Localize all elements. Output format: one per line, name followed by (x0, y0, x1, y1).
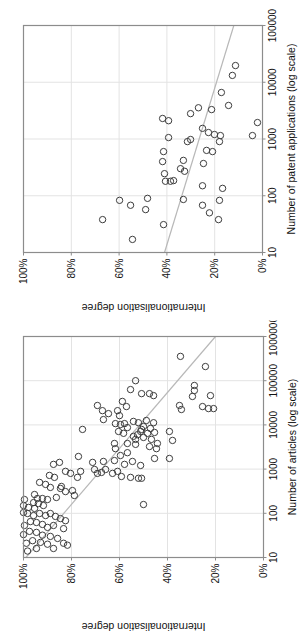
data-point (54, 535, 60, 541)
patents-x-axis-title: Number of patent applications (log scale… (284, 25, 297, 252)
patents-y-axis-title: Internationalisation degree (24, 300, 263, 314)
data-point (100, 416, 106, 422)
patents-plot-area: 101001000100001000000%20%40%60%80%100% (0, 0, 307, 320)
articles-x-axis-title: Number of articles (log scale) (285, 336, 298, 557)
y-tick-label: 100% (18, 258, 29, 284)
data-point (62, 517, 68, 523)
data-point (187, 110, 193, 116)
data-point (199, 182, 205, 188)
patents-chart: 101001000100001000000%20%40%60%80%100% N… (0, 0, 307, 320)
gridlines (23, 25, 262, 252)
data-point (44, 540, 50, 546)
data-point (143, 417, 149, 423)
data-point (180, 196, 186, 202)
data-point (229, 72, 235, 78)
data-point (195, 104, 201, 110)
data-point (151, 455, 157, 461)
x-tick-label: 1000 (267, 457, 278, 480)
data-point (100, 458, 106, 464)
data-point (67, 470, 73, 476)
data-point (44, 524, 50, 530)
x-tick-label: 100 (266, 186, 277, 203)
data-point (50, 522, 56, 528)
data-point (153, 445, 159, 451)
data-point (216, 197, 222, 203)
scatter-points (20, 353, 216, 554)
data-point (124, 449, 130, 455)
data-point (127, 474, 133, 480)
x-tick-label: 10000 (267, 410, 278, 438)
x-tick-label: 10 (266, 246, 277, 258)
data-point (151, 429, 157, 435)
data-point (169, 437, 175, 443)
data-point (77, 468, 83, 474)
data-point (60, 525, 66, 531)
data-point (146, 443, 152, 449)
y-tick-label: 40% (161, 258, 172, 278)
data-point (40, 502, 46, 508)
data-point (51, 474, 57, 480)
data-point (33, 519, 39, 525)
x-tick-label: 100000 (267, 363, 278, 397)
data-point (79, 426, 85, 432)
x-tick-label: 1000 (266, 127, 277, 150)
data-point (207, 392, 213, 398)
articles-plot-area: 1010010001000010000010000000%20%40%60%80… (0, 320, 307, 638)
data-point (177, 165, 183, 171)
data-point (189, 393, 195, 399)
y-tick-label: 80% (65, 258, 76, 278)
gridlines (23, 336, 263, 557)
data-point (254, 119, 260, 125)
data-point (118, 473, 124, 479)
trend-line (25, 336, 215, 557)
data-point (166, 428, 172, 434)
data-point (124, 440, 130, 446)
data-point (47, 484, 53, 490)
data-point (218, 89, 224, 95)
data-point (129, 458, 135, 464)
plot-border (23, 336, 263, 557)
scatter-points (99, 62, 260, 242)
data-point (249, 132, 255, 138)
y-tick-label: 0% (258, 563, 269, 578)
data-point (166, 455, 172, 461)
data-point (159, 115, 165, 121)
data-point (127, 386, 133, 392)
data-point (203, 147, 209, 153)
x-tick-label: 10 (267, 551, 278, 563)
data-point (181, 168, 187, 174)
data-point (121, 461, 127, 467)
y-tick-label: 20% (210, 563, 221, 583)
data-point (74, 474, 80, 480)
data-point (160, 221, 166, 227)
data-point (138, 390, 144, 396)
y-tick-label: 80% (66, 563, 77, 583)
data-point (180, 157, 186, 163)
data-point (120, 430, 126, 436)
data-point (75, 453, 81, 459)
data-point (89, 459, 95, 465)
data-point (225, 102, 231, 108)
y-tick-label: 100% (18, 563, 29, 589)
articles-y-axis-title: Internationalisation degree (23, 618, 263, 632)
y-tick-label: 0% (257, 258, 268, 273)
data-point (129, 236, 135, 242)
x-tick-label: 100000 (266, 8, 277, 42)
articles-chart: 1010010001000010000010000000%20%40%60%80… (0, 320, 307, 638)
data-point (219, 185, 225, 191)
data-point (99, 216, 105, 222)
data-point (202, 363, 208, 369)
data-point (33, 529, 39, 535)
data-point (200, 160, 206, 166)
data-point (178, 406, 184, 412)
data-point (215, 216, 221, 222)
data-point (140, 501, 146, 507)
data-point (50, 461, 56, 467)
data-point (33, 545, 39, 551)
x-tick-label: 1000000 (267, 320, 278, 355)
y-tick-label: 20% (209, 258, 220, 278)
data-point (27, 518, 33, 524)
y-tick-label: 40% (162, 563, 173, 583)
data-point (94, 402, 100, 408)
data-point (47, 533, 53, 539)
